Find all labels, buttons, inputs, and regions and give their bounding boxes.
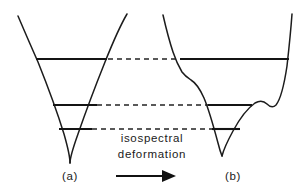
- annotation-deformation: deformation: [118, 148, 186, 160]
- figure-canvas: isospectral deformation (a) (b): [0, 0, 304, 192]
- panel-b-caption: (b): [225, 170, 241, 182]
- figure-root: isospectral deformation (a) (b): [0, 0, 304, 192]
- isospectral-links-group: [92, 59, 213, 129]
- panel-a-group: [18, 14, 127, 163]
- potential-curve-a-right: [70, 14, 127, 163]
- annotation-isospectral: isospectral: [121, 132, 184, 144]
- potential-curve-a-left: [18, 16, 70, 163]
- potential-curve-b-right: [222, 14, 292, 156]
- panel-a-caption: (a): [62, 170, 78, 182]
- right-arrow-icon: [116, 170, 176, 182]
